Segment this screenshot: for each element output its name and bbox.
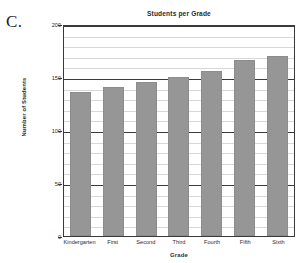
figure-panel: C. Students per Grade 050100150200 Numbe… <box>0 0 305 263</box>
bar <box>136 82 157 236</box>
bar <box>168 77 189 236</box>
y-axis-tick-labels: 050100150200 <box>31 25 61 237</box>
x-tick-label: First <box>96 239 129 245</box>
x-tick-label: Fourth <box>196 239 229 245</box>
x-axis-tick-labels: KindergartenFirstSecondThirdFourthFifthS… <box>63 239 295 245</box>
bar-series <box>64 26 294 236</box>
bar <box>267 56 288 236</box>
x-tick-label: Third <box>162 239 195 245</box>
y-tick-mark <box>58 78 62 79</box>
bar <box>234 60 255 236</box>
x-tick-label: Sixth <box>262 239 295 245</box>
bar <box>103 87 124 236</box>
x-tick-label: Fifth <box>229 239 262 245</box>
panel-letter: C. <box>6 12 22 32</box>
x-axis-title: Grade <box>63 252 295 258</box>
y-tick-mark <box>58 131 62 132</box>
bar <box>70 92 91 236</box>
y-tick-mark <box>58 184 62 185</box>
bar <box>201 71 222 236</box>
y-tick-mark <box>58 25 62 26</box>
plot-area <box>63 25 295 237</box>
y-axis-title: Number of Students <box>21 65 27 149</box>
chart-title: Students per Grade <box>63 10 295 17</box>
y-tick-mark <box>58 237 62 238</box>
x-tick-label: Second <box>129 239 162 245</box>
x-tick-label: Kindergarten <box>63 239 96 245</box>
